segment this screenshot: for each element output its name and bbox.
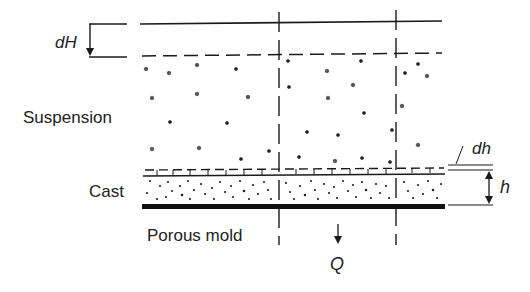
porous-mold-bar: [142, 204, 445, 209]
initial-suspension-level: [89, 21, 442, 24]
cast-layer-particles: [146, 180, 442, 200]
suspension-label: Suspension: [23, 108, 112, 127]
porous-mold-label: Porous mold: [147, 226, 242, 245]
h-label: h: [500, 177, 510, 197]
control-volume-boundaries: [279, 10, 396, 245]
cast-top-surface: [143, 174, 445, 176]
lowered-suspension-level: [142, 53, 442, 56]
dH-arrowhead-icon: [86, 48, 94, 56]
Q-flow-arrow-icon: [334, 224, 342, 244]
slip-casting-diagram: dH: [0, 0, 530, 292]
suspension-particles: [144, 59, 429, 163]
dH-arrow-icon: [89, 24, 127, 57]
Q-label: Q: [330, 254, 344, 274]
deposition-front: [145, 168, 444, 170]
dH-label: dH: [55, 33, 77, 52]
cast-label: Cast: [89, 182, 124, 201]
dh-label: dh: [472, 139, 491, 158]
h-dimension-arrow-icon: [485, 171, 493, 204]
